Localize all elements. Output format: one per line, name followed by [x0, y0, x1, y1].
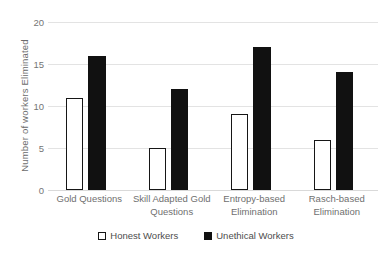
y-tick-20: 20 [33, 17, 44, 28]
y-tick-15: 15 [33, 59, 44, 70]
bar-chart: Number of workers Eliminated 20 15 10 5 … [0, 0, 392, 256]
y-tick-0: 0 [39, 185, 44, 196]
legend-swatch-icon-honest [98, 232, 106, 240]
y-tick-10: 10 [33, 101, 44, 112]
bar-honest [149, 148, 166, 190]
legend-item-honest-workers: Honest Workers [98, 230, 178, 241]
x-axis-labels: Gold QuestionsSkill Adapted Gold Questio… [48, 193, 378, 218]
y-tick-5: 5 [39, 143, 44, 154]
bar-honest [314, 140, 331, 190]
x-axis-label: Rasch-based Elimination [296, 193, 379, 218]
x-axis-label: Skill Adapted Gold Questions [131, 193, 214, 218]
bar-unethical [171, 89, 188, 190]
y-axis-tick-labels: 20 15 10 5 0 [26, 22, 44, 190]
bar-unethical [88, 56, 105, 190]
bar-group [48, 22, 131, 190]
legend-item-unethical-workers: Unethical Workers [204, 230, 293, 241]
bar-unethical [336, 72, 353, 190]
x-axis-label: Entropy-based Elimination [213, 193, 296, 218]
gridline-0 [48, 190, 378, 191]
legend-label-unethical: Unethical Workers [216, 230, 293, 241]
bar-group [296, 22, 379, 190]
bar-honest [66, 98, 83, 190]
bar-group [131, 22, 214, 190]
bar-unethical [253, 47, 270, 190]
chart-legend: Honest Workers Unethical Workers [0, 230, 392, 241]
bar-honest [231, 114, 248, 190]
legend-label-honest: Honest Workers [110, 230, 178, 241]
legend-swatch-icon-unethical [204, 232, 212, 240]
bar-groups [48, 22, 378, 190]
x-axis-label: Gold Questions [48, 193, 131, 218]
bar-group [213, 22, 296, 190]
plot-area [48, 22, 378, 190]
